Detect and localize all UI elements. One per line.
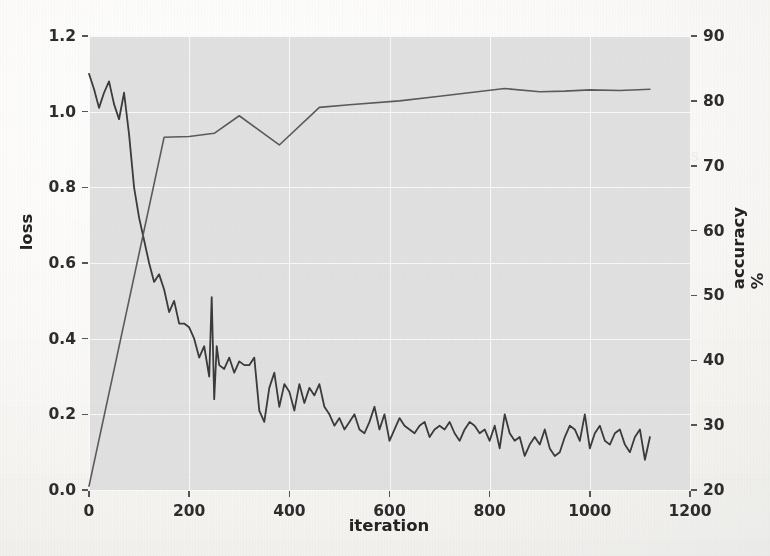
x-axis-tick-label: 0 [49,502,129,520]
y-axis-left-tickmark [82,338,88,340]
data-series-layer [89,36,690,490]
x-axis-tick-label: 1000 [550,502,630,520]
y-axis-left-tick-label: 0.2 [49,405,76,423]
y-axis-left-tick-label: 0.8 [49,178,76,196]
y-axis-right-tick-label: 30 [703,416,725,434]
y-axis-right-tick-label: 70 [703,157,725,175]
y-axis-left-tick-label: 0.0 [49,481,76,499]
y-axis-left-tick-label: 0.6 [49,254,76,272]
y-axis-right-tickmark [691,35,697,37]
x-axis-tick-label: 400 [249,502,329,520]
y-axis-right-tick-label: 20 [703,481,725,499]
x-axis-tickmark [389,491,391,497]
y-axis-right-title: accuracy % [729,207,767,289]
y-axis-right-tickmark [691,295,697,297]
plot-area [89,36,690,490]
chart-figure: 0.00.20.40.60.81.01.2 2030405060708090 0… [0,0,770,556]
y-axis-right-tickmark [691,230,697,232]
y-axis-right-tick-label: 40 [703,351,725,369]
y-axis-right-tick-label: 80 [703,92,725,110]
y-axis-left-tickmark [82,111,88,113]
x-axis-tick-label: 1200 [650,502,730,520]
y-axis-left-tickmark [82,262,88,264]
y-axis-left-title: loss [17,214,36,251]
y-axis-right-tick-label: 60 [703,222,725,240]
y-axis-right-tick-label: 90 [703,27,725,45]
y-axis-left-tick-label: 1.2 [49,27,76,45]
y-axis-left-tick-label: 0.4 [49,330,76,348]
y-axis-left-tick-label: 1.0 [49,103,76,121]
y-axis-left-tickmark [82,35,88,37]
x-axis-title: iteration [349,516,430,535]
y-axis-left-tickmark [82,489,88,491]
x-axis-tick-label: 800 [450,502,530,520]
x-axis-tickmark [188,491,190,497]
loss-line [89,74,650,460]
x-axis-tickmark [589,491,591,497]
x-axis-tickmark [489,491,491,497]
y-axis-right-tickmark [691,489,697,491]
x-axis-tick-label: 200 [149,502,229,520]
y-axis-right-tickmark [691,424,697,426]
x-axis-tickmark [689,491,691,497]
y-axis-left-tickmark [82,414,88,416]
accuracy-line [89,89,650,487]
y-axis-right-tickmark [691,100,697,102]
y-axis-right-tick-label: 50 [703,286,725,304]
gridline-vertical [690,36,691,490]
x-axis-tickmark [289,491,291,497]
y-axis-right-tickmark [691,360,697,362]
y-axis-right-tickmark [691,165,697,167]
x-axis-tickmark [88,491,90,497]
y-axis-left-tickmark [82,187,88,189]
